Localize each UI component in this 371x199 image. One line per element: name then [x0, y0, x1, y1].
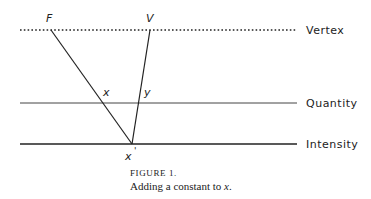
point-f-label: F [46, 12, 53, 25]
caption-suffix: . [229, 180, 232, 192]
figure-label: FIGURE 1. [130, 168, 177, 178]
quantity-label: Quantity [306, 97, 358, 110]
prime-mark: ' [134, 146, 136, 156]
caption-text: Adding a constant to x. [130, 180, 232, 192]
f-to-x-prime-line [51, 30, 132, 144]
intensity-label: Intensity [306, 138, 358, 151]
point-v-label: V [146, 12, 155, 25]
figure-container: F V x y x ' Vertex Quantity Intensity FI… [0, 0, 371, 199]
point-x-label: x [102, 86, 110, 99]
caption-prefix: Adding a constant to [130, 180, 224, 192]
vertex-label: Vertex [306, 24, 344, 37]
diagram: F V x y x ' Vertex Quantity Intensity FI… [0, 0, 371, 199]
point-x-prime-label: x [124, 150, 132, 163]
point-y-label: y [143, 86, 151, 99]
